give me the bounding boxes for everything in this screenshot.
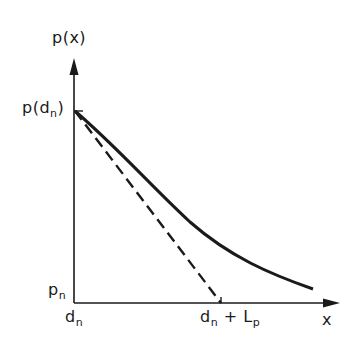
pressure-curve	[75, 111, 313, 289]
y-axis-label: p(x)	[52, 30, 86, 46]
y-tick-label-bottom: pn	[48, 282, 66, 298]
y-tick-label-top: p(dn)	[22, 100, 64, 116]
tangent-line	[75, 111, 221, 303]
diagram-canvas	[0, 0, 358, 360]
y-axis-arrow-icon	[70, 58, 79, 75]
x-axis-arrow-icon	[323, 299, 340, 308]
x-axis-label: x	[322, 312, 332, 328]
x-tick-label-left: dn	[65, 309, 83, 325]
x-tick-label-right: dn + Lp	[200, 309, 260, 325]
